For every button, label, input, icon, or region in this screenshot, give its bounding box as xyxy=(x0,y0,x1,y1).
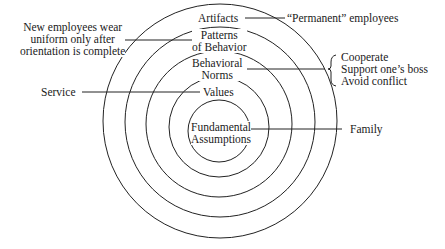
layer-label-values: Values xyxy=(203,86,234,98)
brace-norms xyxy=(328,55,336,86)
layer-label-patterns: Patternsof Behavior xyxy=(192,29,247,53)
example-assumptions: Family xyxy=(350,123,383,135)
layer-label-assumptions: FundamentalAssumptions xyxy=(191,121,251,145)
example-values: Service xyxy=(41,86,75,98)
example-patterns: New employees wear uniform only after or… xyxy=(20,21,125,57)
layer-label-norms: BehavioralNorms xyxy=(192,57,242,81)
layer-label-artifacts: Artifacts xyxy=(198,12,238,24)
example-artifacts: “Permanent” employees xyxy=(287,12,398,24)
example-norms: Cooperate Support one’s boss Avoid confl… xyxy=(341,51,428,87)
